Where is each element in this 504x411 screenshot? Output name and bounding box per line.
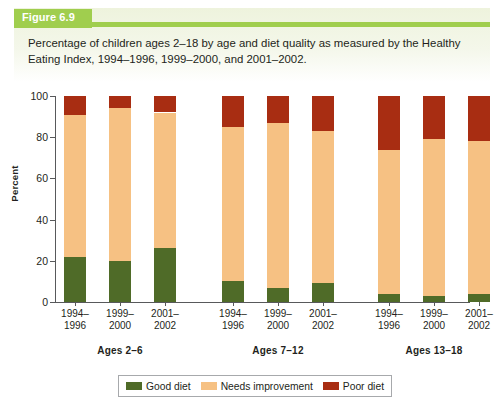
stacked-bar	[64, 96, 86, 302]
bar-segment-needs-improvement	[378, 150, 400, 294]
y-axis-tick-label: 0	[18, 296, 48, 308]
bar-segment-good-diet	[378, 294, 400, 302]
x-axis-tick-mark	[120, 302, 121, 306]
group-label-ages-7-12: Ages 7–12	[218, 345, 338, 356]
chart-legend: Good diet Needs improvement Poor diet	[118, 375, 392, 397]
legend-swatch-good-diet	[126, 382, 142, 390]
bar-segment-poor-diet	[109, 96, 131, 108]
bar-segment-needs-improvement	[468, 141, 490, 293]
legend-label-needs-improvement: Needs improvement	[221, 381, 313, 392]
x-axis-line	[55, 302, 470, 303]
bar-segment-good-diet	[154, 248, 176, 302]
legend-label-poor-diet: Poor diet	[343, 381, 384, 392]
legend-swatch-needs-improvement	[201, 382, 217, 390]
stacked-bar	[378, 96, 400, 302]
y-axis-tick-mark	[50, 261, 55, 262]
x-axis-tick-label: 2001–2002	[453, 308, 504, 332]
x-axis-tick-label-line: 2001–	[297, 308, 349, 320]
y-axis-tick-label: 80	[18, 131, 48, 143]
bar-segment-good-diet	[222, 281, 244, 302]
x-axis-tick-label: 2001–2002	[297, 308, 349, 332]
stacked-bar	[267, 96, 289, 302]
stacked-bar	[423, 96, 445, 302]
stacked-bar	[468, 96, 490, 302]
legend-item-needs-improvement: Needs improvement	[201, 381, 313, 392]
x-axis-tick-label-line: 2001–	[453, 308, 504, 320]
y-axis-line	[55, 96, 56, 303]
y-axis-tick-label: 40	[18, 214, 48, 226]
bar-segment-good-diet	[109, 261, 131, 302]
bar-segment-needs-improvement	[312, 131, 334, 283]
bar-segment-good-diet	[267, 288, 289, 302]
legend-item-good-diet: Good diet	[126, 381, 191, 392]
x-axis-tick-label-line: 2001–	[139, 308, 191, 320]
x-axis-tick-label-line: 2002	[453, 320, 504, 332]
bar-segment-needs-improvement	[267, 123, 289, 288]
stacked-bar-chart: Percent 0204060801001994–19961999–200020…	[0, 0, 504, 411]
x-axis-tick-mark	[75, 302, 76, 306]
y-axis-tick-mark	[50, 302, 55, 303]
y-axis-tick-label: 60	[18, 172, 48, 184]
bar-segment-poor-diet	[423, 96, 445, 139]
stacked-bar	[109, 96, 131, 302]
x-axis-tick-label-line: 2002	[297, 320, 349, 332]
bar-segment-needs-improvement	[64, 115, 86, 257]
figure-panel: Figure 6.9 Percentage of children ages 2…	[0, 0, 504, 411]
x-axis-tick-mark	[389, 302, 390, 306]
bar-segment-poor-diet	[64, 96, 86, 115]
legend-item-poor-diet: Poor diet	[323, 381, 384, 392]
group-label-ages-2-6: Ages 2–6	[60, 345, 180, 356]
bar-segment-poor-diet	[154, 96, 176, 112]
x-axis-tick-mark	[434, 302, 435, 306]
bar-segment-poor-diet	[267, 96, 289, 123]
y-axis-tick-mark	[50, 137, 55, 138]
bar-segment-needs-improvement	[222, 127, 244, 282]
bar-segment-good-diet	[312, 283, 334, 302]
y-axis-tick-mark	[50, 96, 55, 97]
legend-swatch-poor-diet	[323, 382, 339, 390]
bar-segment-poor-diet	[222, 96, 244, 127]
bar-segment-poor-diet	[468, 96, 490, 141]
bar-segment-needs-improvement	[109, 108, 131, 260]
x-axis-tick-mark	[323, 302, 324, 306]
bar-segment-good-diet	[468, 294, 490, 302]
x-axis-tick-mark	[479, 302, 480, 306]
y-axis-tick-label: 100	[18, 90, 48, 102]
y-axis-tick-mark	[50, 178, 55, 179]
x-axis-tick-mark	[233, 302, 234, 306]
y-axis-tick-mark	[50, 220, 55, 221]
stacked-bar	[222, 96, 244, 302]
stacked-bar	[154, 96, 176, 302]
bar-segment-needs-improvement	[154, 113, 176, 249]
bar-segment-good-diet	[64, 257, 86, 302]
x-axis-tick-label: 2001–2002	[139, 308, 191, 332]
x-axis-tick-label-line: 2002	[139, 320, 191, 332]
x-axis-tick-mark	[165, 302, 166, 306]
bar-segment-needs-improvement	[423, 139, 445, 296]
bar-segment-poor-diet	[312, 96, 334, 131]
legend-label-good-diet: Good diet	[146, 381, 191, 392]
y-axis-tick-label: 20	[18, 255, 48, 267]
stacked-bar	[312, 96, 334, 302]
bar-segment-poor-diet	[378, 96, 400, 150]
x-axis-tick-mark	[278, 302, 279, 306]
group-label-ages-13-18: Ages 13–18	[374, 345, 494, 356]
